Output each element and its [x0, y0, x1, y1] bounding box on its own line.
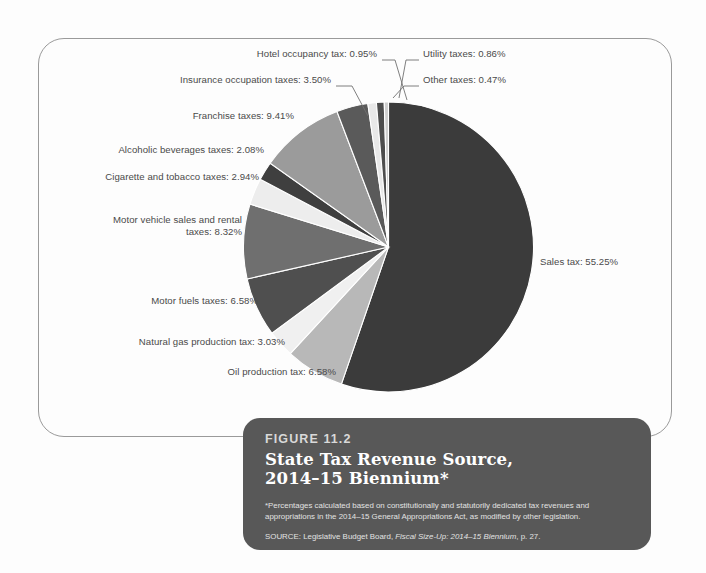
figure-title: State Tax Revenue Source, 2014–15 Bienni…: [265, 450, 629, 488]
source-suffix: , p. 27.: [516, 532, 540, 541]
figure-footnote: *Percentages calculated based on constit…: [265, 500, 615, 522]
figure-title-line-2: 2014–15 Biennium*: [265, 469, 449, 488]
source-prefix: SOURCE: Legislative Budget Board,: [265, 532, 395, 541]
figure-caption-box: FIGURE 11.2 State Tax Revenue Source, 20…: [243, 418, 651, 550]
figure-source-line: SOURCE: Legislative Budget Board, Fiscal…: [265, 531, 629, 542]
figure-frame: [38, 38, 672, 437]
figure-number: FIGURE 11.2: [265, 432, 629, 446]
figure-title-line-1: State Tax Revenue Source,: [265, 450, 513, 469]
source-title: Fiscal Size-Up: 2014–15 Biennium: [395, 532, 516, 541]
